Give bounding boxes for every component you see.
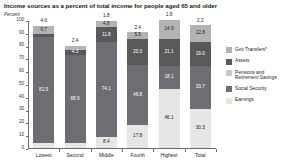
legend-label: Social Security (235, 86, 267, 91)
y-axis-tick-mark (26, 98, 29, 99)
legend-label: Pensions and Retirement Savings (235, 70, 277, 81)
y-axis-tick-label: 20 (19, 120, 24, 125)
bar-segment-value-label: 6.7 (40, 28, 47, 33)
bar-group[interactable]: 3.14.368.93.62.4 (65, 46, 86, 148)
bar-segment[interactable]: 68.9 (65, 55, 86, 143)
bar-segment[interactable]: 8.4 (96, 137, 117, 148)
legend-label: Gov Transfers* (235, 47, 267, 52)
bar-group[interactable]: 5.520.346.817.82.4 (127, 32, 148, 148)
bar-segment[interactable]: 19.0 (190, 42, 211, 66)
bar-segment[interactable]: 17.8 (127, 125, 148, 148)
y-axis-tick-label: 80 (19, 43, 24, 48)
bar-segment[interactable]: 14.9 (159, 20, 180, 39)
bar-segment[interactable]: 11.8 (96, 27, 117, 42)
bar-group[interactable]: 14.921.118.146.11.8 (159, 20, 180, 148)
bar-segment-value-label: 74.1 (102, 87, 111, 92)
bar-segment-value-label: 11.8 (102, 33, 111, 38)
y-axis-tick-label: 0 (21, 146, 24, 151)
bar-segment-value-label: 8.4 (103, 140, 110, 145)
page-title: Income sources as a percent of total inc… (4, 2, 217, 9)
bar-stack: 4.811.874.18.4 (96, 21, 117, 148)
bar-segment-value-label: 82.9 (39, 88, 48, 93)
x-axis-category-label: Second (59, 153, 90, 158)
x-axis-tick-mark (185, 149, 186, 152)
income-sources-stacked-bar-chart: Income sources as a percent of total inc… (0, 0, 299, 168)
x-axis-category-label: Lowest (28, 153, 59, 158)
bar-stack: 3.14.368.93.6 (65, 46, 86, 148)
bar-group[interactable]: 6.72.282.93.64.6 (33, 26, 54, 148)
bar-segment-value-label: 18.1 (164, 75, 173, 80)
bar-stack: 14.921.118.146.1 (159, 20, 180, 148)
y-axis-tick-label: 40 (19, 95, 24, 100)
y-axis-tick-mark (26, 47, 29, 48)
x-axis-category-label: Middle (91, 153, 122, 158)
bar-stack: 5.520.346.817.8 (127, 32, 148, 148)
legend-label: Earnings (235, 97, 254, 102)
bar-segment[interactable]: 12.8 (190, 25, 211, 41)
bar-segment[interactable]: 5.5 (127, 32, 148, 39)
x-axis-tick-mark (153, 149, 154, 152)
y-axis-tick-mark (26, 34, 29, 35)
x-axis-tick-mark (122, 149, 123, 152)
bar-segment[interactable]: 74.1 (96, 42, 117, 137)
x-axis-tick-mark (59, 149, 60, 152)
bar-top-annotation: 1.8 (96, 14, 117, 19)
x-axis-tick-mark (91, 149, 92, 152)
y-axis-tick-mark (26, 72, 29, 73)
bar-top-annotation: 2.2 (190, 19, 211, 24)
bar-segment-value-label: 14.9 (164, 27, 173, 32)
bar-segment-value-label: 68.9 (70, 97, 79, 102)
bar-segment[interactable]: 82.9 (33, 37, 54, 143)
bar-segment[interactable]: 6.7 (33, 26, 54, 35)
y-axis-tick-label: 90 (19, 31, 24, 36)
legend-item[interactable]: Pensions and Retirement Savings (226, 70, 298, 81)
bar-group[interactable]: 4.811.874.18.41.8 (96, 21, 117, 148)
y-axis-tick-label: 100 (16, 18, 24, 23)
y-axis-tick-mark (26, 21, 29, 22)
y-axis-tick-mark (26, 149, 29, 150)
bar-segment[interactable]: 20.3 (127, 39, 148, 65)
bar-segment[interactable]: 3.6 (33, 143, 54, 148)
legend-color-swatch (226, 86, 232, 92)
x-axis-category-label: Fourth (122, 153, 153, 158)
legend-item[interactable]: Social Security (226, 86, 298, 92)
bar-segment[interactable]: 18.1 (159, 66, 180, 89)
y-axis-tick-mark (26, 123, 29, 124)
bar-segment[interactable]: 46.8 (127, 65, 148, 125)
bar-segment[interactable]: 3.6 (65, 143, 86, 148)
bar-segment-value-label: 12.8 (196, 31, 205, 36)
legend-label: Assets (235, 58, 249, 63)
legend-item[interactable]: Earnings (226, 97, 298, 103)
bar-segment-value-label: 4.8 (103, 22, 110, 27)
y-axis-tick-label: 30 (19, 107, 24, 112)
legend-color-swatch (226, 98, 232, 104)
y-axis-tick-mark (26, 136, 29, 137)
bar-segment[interactable]: 21.1 (159, 39, 180, 66)
bar-segment[interactable]: 30.3 (190, 109, 211, 148)
bar-segment-value-label: 19.0 (196, 52, 205, 57)
legend-color-swatch (226, 70, 232, 76)
y-axis-tick-label: 50 (19, 82, 24, 87)
plot-area: 0102030405060708090100 6.72.282.93.64.63… (28, 21, 216, 149)
bar-segment-value-label: 4.3 (72, 50, 79, 55)
bar-top-annotation: 2.4 (65, 39, 86, 44)
legend-item[interactable]: Assets (226, 58, 298, 64)
bar-segment[interactable]: 33.7 (190, 66, 211, 109)
bar-stack: 12.819.033.730.3 (190, 25, 211, 148)
bar-segment-value-label: 46.1 (164, 116, 173, 121)
bar-segment-value-label: 20.3 (133, 50, 142, 55)
bar-top-annotation: 1.8 (159, 13, 180, 18)
bar-group[interactable]: 12.819.033.730.32.2 (190, 25, 211, 148)
x-axis-tick-mark (216, 149, 217, 152)
y-axis-tick-mark (26, 111, 29, 112)
legend-item[interactable]: Gov Transfers* (226, 47, 298, 53)
bar-segment-value-label: 21.1 (164, 50, 173, 55)
bar-segment-value-label: 46.8 (133, 93, 142, 98)
x-axis-category-label: Total (185, 153, 216, 158)
bar-segment[interactable]: 46.1 (159, 89, 180, 148)
y-axis-tick-label: 70 (19, 56, 24, 61)
bar-segment-value-label: 17.8 (133, 134, 142, 139)
x-axis-category-label: Highest (153, 153, 184, 158)
y-axis-tick-label: 10 (19, 133, 24, 138)
bar-segment-value-label: 33.7 (196, 85, 205, 90)
